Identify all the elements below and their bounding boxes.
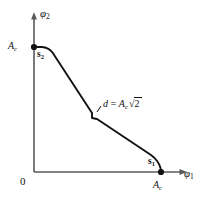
x-axis-label: φ1 xyxy=(184,168,194,181)
boundary-curve xyxy=(34,47,161,172)
radical-sign-icon: √ xyxy=(128,98,135,109)
formula-equals: = xyxy=(110,98,117,109)
annotation-distance-formula: d = Ac√2 xyxy=(103,99,142,111)
point-label-s1-subscript: 1 xyxy=(152,160,155,167)
y-tick-subscript: c xyxy=(14,45,17,53)
y-axis-label: φ2 xyxy=(40,8,50,21)
x-tick-subscript: c xyxy=(159,184,162,192)
annotation-leader-line xyxy=(97,106,101,112)
point-label-s2-subscript: 2 xyxy=(41,53,44,60)
figure-container: φ2 φ1 Ac Ac s2 s1 0 d = Ac√2 xyxy=(0,0,202,201)
x-axis-tick-label-ac: Ac xyxy=(153,180,162,192)
formula-lhs: d xyxy=(103,98,108,109)
y-axis-label-subscript: 2 xyxy=(46,12,50,21)
y-axis-arrowhead xyxy=(31,12,37,20)
origin-label: 0 xyxy=(20,176,26,187)
point-label-s2: s2 xyxy=(37,50,44,61)
point-label-s1: s1 xyxy=(148,157,155,168)
point-marker-s1 xyxy=(158,169,164,175)
x-axis-label-subscript: 1 xyxy=(190,172,194,181)
plot-canvas xyxy=(0,0,202,201)
y-axis-tick-label-ac: Ac xyxy=(8,41,17,53)
